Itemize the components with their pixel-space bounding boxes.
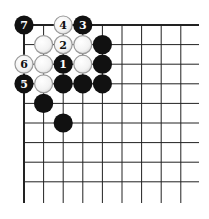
black-stone-move-5: 5	[14, 74, 33, 93]
stone-circle	[35, 75, 53, 93]
black-stone	[73, 74, 92, 93]
stone-circle	[74, 55, 92, 73]
white-stone-move-4: 4	[54, 16, 72, 34]
move-number-label: 6	[20, 58, 28, 71]
move-number-label: 7	[20, 19, 28, 32]
white-stone	[35, 55, 53, 73]
white-stone	[74, 36, 92, 54]
stone-circle	[35, 36, 53, 54]
stone-circle	[35, 55, 53, 73]
stone-circle	[93, 35, 112, 54]
stone-circle	[74, 36, 92, 54]
move-number-label: 5	[20, 78, 28, 91]
stone-circle	[34, 94, 53, 113]
stone-circle	[54, 74, 73, 93]
move-number-label: 4	[59, 19, 67, 32]
black-stone	[34, 94, 53, 113]
white-stone	[35, 36, 53, 54]
move-number-label: 2	[59, 39, 67, 52]
move-number-label: 1	[59, 58, 67, 71]
black-stone	[54, 74, 73, 93]
black-stone	[93, 55, 112, 74]
white-stone-move-6: 6	[15, 55, 33, 73]
black-stone-move-3: 3	[73, 15, 92, 34]
black-stone	[93, 74, 112, 93]
stone-circle	[93, 74, 112, 93]
white-stone	[74, 55, 92, 73]
black-stone-move-1: 1	[54, 55, 73, 74]
stone-circle	[54, 113, 73, 132]
black-stone-move-7: 7	[14, 15, 33, 34]
stone-circle	[93, 55, 112, 74]
black-stone	[54, 113, 73, 132]
black-stone	[93, 35, 112, 54]
white-stone-move-2: 2	[54, 36, 72, 54]
grid-lines	[24, 25, 199, 203]
white-stone	[35, 75, 53, 93]
go-board: 7432615	[0, 0, 209, 219]
stone-circle	[73, 74, 92, 93]
move-number-label: 3	[79, 19, 87, 32]
